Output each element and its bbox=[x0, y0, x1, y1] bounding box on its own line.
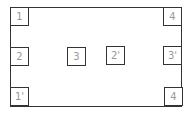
box-bottom-right: 4 bbox=[164, 87, 183, 106]
box-bottom-left: 1' bbox=[10, 87, 29, 106]
box-center-left: 3 bbox=[67, 47, 86, 66]
box-mid-left: 2 bbox=[10, 47, 29, 66]
box-top-left: 1 bbox=[10, 7, 29, 26]
outer-frame bbox=[10, 7, 182, 107]
box-center-right: 2' bbox=[106, 46, 125, 65]
box-top-right: 4 bbox=[163, 7, 182, 26]
box-mid-right: 3' bbox=[163, 46, 182, 65]
